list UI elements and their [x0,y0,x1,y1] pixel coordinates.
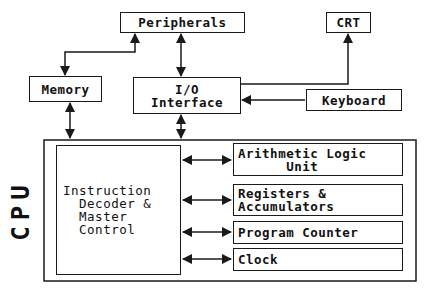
memory-box: Memory [29,76,102,102]
cpu-diagram: CPU Peripherals CRT Memory I/O Interface… [0,0,428,289]
registers-box: Registers & Accumulators [233,184,403,216]
alu-box: Arithmetic Logic Unit [233,143,403,176]
keyboard-box: Keyboard [306,89,402,111]
io-crt-arrow [240,34,348,84]
program-counter-box: Program Counter [233,221,403,244]
clock-box: Clock [233,248,403,271]
peripherals-memory-arrow [65,34,135,75]
crt-box: CRT [326,12,371,33]
cpu-label: CPU [0,195,61,225]
instruction-decoder-box: Instruction Decoder & Master Control [56,145,181,275]
peripherals-box: Peripherals [120,12,245,33]
io-interface-box: I/O Interface [133,77,241,114]
